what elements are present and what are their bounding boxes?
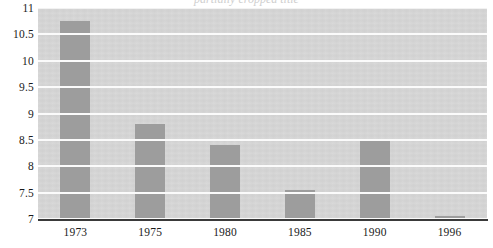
- plot-area: [38, 8, 487, 219]
- gridline: [38, 33, 487, 35]
- gridline: [38, 8, 487, 9]
- y-axis-tick-labels: 1110.5109.598.587.57: [0, 8, 34, 220]
- gridline: [38, 218, 487, 219]
- x-axis-tick-label: 1980: [213, 223, 237, 241]
- y-axis-tick-label: 7.5: [0, 187, 34, 199]
- gridline: [38, 113, 487, 115]
- y-axis-tick-label: 7: [0, 213, 34, 225]
- y-axis-tick-label: 10: [0, 55, 34, 67]
- gridline: [38, 86, 487, 88]
- x-axis-line: [38, 219, 488, 221]
- bar: [210, 145, 240, 219]
- x-axis-tick-label: 1985: [288, 223, 312, 241]
- y-axis-tick-label: 8.5: [0, 134, 34, 146]
- bar: [60, 21, 90, 219]
- x-axis-tick-label: 1990: [363, 223, 387, 241]
- y-axis-tick-label: 9.5: [0, 81, 34, 93]
- chart-title-cropped: partially cropped title: [0, 0, 493, 7]
- bar: [360, 139, 390, 219]
- chart-title-text: partially cropped title: [194, 0, 299, 5]
- gridline: [38, 192, 487, 194]
- gridline: [38, 139, 487, 141]
- gridline: [38, 60, 487, 62]
- gridline: [38, 165, 487, 167]
- x-axis-tick-label: 1975: [138, 223, 162, 241]
- x-axis-tick-label: 1973: [64, 223, 88, 241]
- x-axis-tick-label: 1996: [438, 223, 462, 241]
- y-axis-tick-label: 9: [0, 108, 34, 120]
- bar-chart-figure: partially cropped title 1110.5109.598.58…: [0, 0, 493, 248]
- y-axis-tick-label: 11: [0, 2, 34, 14]
- y-axis-tick-label: 8: [0, 160, 34, 172]
- x-axis-tick-labels: 197319751980198519901996: [38, 223, 487, 245]
- y-axis-tick-label: 10.5: [0, 28, 34, 40]
- bar: [285, 190, 315, 219]
